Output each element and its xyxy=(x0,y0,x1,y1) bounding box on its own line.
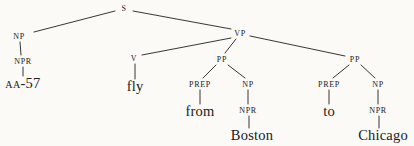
tree-node-npr1: NPR xyxy=(14,55,32,67)
tree-node-s: S xyxy=(121,2,126,14)
tree-node-v: V xyxy=(131,52,137,64)
tree-node-boston: Boston xyxy=(231,128,273,143)
tree-node-aa57: AA-57 xyxy=(5,76,40,91)
tree-node-chicago: Chicago xyxy=(358,128,408,143)
tree-node-to: to xyxy=(323,104,335,119)
tree-edge-np1-npr1 xyxy=(20,42,21,55)
tree-edge-layer xyxy=(0,0,414,146)
parse-tree-figure: SNPNPRAA-57VPVflyPPPREPfromNPNPRBostonPP… xyxy=(0,0,414,146)
tree-edge-vp-pp2 xyxy=(250,36,345,56)
tree-node-np1: NP xyxy=(13,30,25,42)
tree-node-pp1: PP xyxy=(217,53,227,65)
tree-edge-pp2-np3 xyxy=(361,65,375,78)
tree-node-npr3: NPR xyxy=(369,104,387,116)
tree-edge-pp1-prep1 xyxy=(203,65,216,78)
tree-node-np3: NP xyxy=(372,78,384,90)
tree-edge-pp2-prep2 xyxy=(333,65,349,78)
tree-node-npr2: NPR xyxy=(239,104,257,116)
tree-edge-vp-pp1 xyxy=(225,39,236,53)
tree-node-pp2: PP xyxy=(350,53,360,65)
tree-node-prep2: PREP xyxy=(318,78,340,90)
tree-node-fly: fly xyxy=(127,79,144,94)
tree-node-np2: NP xyxy=(242,78,254,90)
tree-node-vp: VP xyxy=(234,27,246,39)
tree-node-prep1: PREP xyxy=(189,78,211,90)
tree-edge-s-np1 xyxy=(34,11,115,32)
tree-edge-pp1-np2 xyxy=(228,65,245,78)
tree-edge-s-vp xyxy=(133,11,231,29)
tree-node-from: from xyxy=(186,104,215,119)
